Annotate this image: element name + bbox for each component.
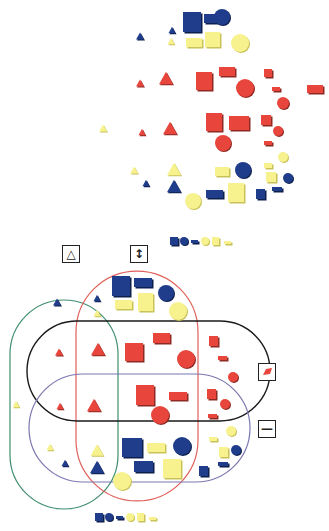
red-rect-block: [208, 414, 219, 420]
yellow-circle-block: [113, 472, 132, 491]
yellow-square-block: [266, 172, 278, 184]
yellow-rect-block: [186, 38, 204, 49]
red-triangle-block: [136, 79, 145, 87]
yellow-rect-block: [149, 517, 158, 522]
yellow-triangle-block: [91, 444, 105, 457]
red-circle-block: [273, 126, 284, 137]
blue-triangle-block: [94, 295, 102, 302]
yellow-circle-block: [226, 426, 237, 437]
yellow-circle-block: [185, 193, 202, 210]
bottom-legend: [95, 513, 158, 523]
yellow-rect-block: [209, 437, 219, 443]
top-legend: [170, 237, 233, 247]
label-thin-icon: —: [258, 420, 276, 438]
red-rect-block: [218, 356, 229, 362]
red-rect-block: [229, 116, 251, 132]
sorted-blocks-group: [13, 276, 243, 491]
yellow-rect-block: [215, 167, 231, 178]
yellow-square-block: [137, 513, 146, 523]
red-triangle-block: [91, 343, 106, 357]
red-square-block: [125, 343, 145, 363]
red-triangle-block: [87, 399, 102, 413]
red-triangle-block: [139, 129, 147, 136]
yellow-circle-block: [169, 302, 188, 321]
red-circle-block: [220, 399, 231, 410]
blue-circle-block: [283, 173, 294, 184]
venn-diagram-figure: △ ↕ —: [0, 0, 329, 531]
red-circle-block: [215, 135, 232, 152]
blue-triangle-block: [143, 180, 151, 187]
yellow-square-block: [163, 459, 183, 480]
red-triangle-block: [163, 122, 178, 136]
loop-triangle-green: [10, 300, 118, 509]
yellow-triangle-block: [13, 401, 21, 408]
blue-rect-block: [206, 190, 225, 200]
red-circle-block: [177, 350, 196, 369]
blue-circle-block: [158, 285, 175, 302]
blue-rect-block: [272, 187, 284, 193]
blue-circle-block: [173, 437, 192, 456]
triangle-icon: △: [66, 248, 75, 260]
red-square-block: [264, 69, 274, 79]
yellow-triangle-block: [130, 166, 139, 174]
yellow-square-block: [138, 293, 155, 313]
red-rect-block: [169, 392, 189, 402]
yellow-triangle-block: [47, 444, 55, 451]
red-triangle-block: [55, 348, 64, 356]
yellow-rect-block: [264, 163, 274, 170]
blue-triangle-block: [62, 460, 70, 467]
blue-triangle-block: [90, 461, 105, 475]
yellow-circle-block: [231, 34, 250, 53]
red-square-block: [207, 389, 218, 401]
diagram-canvas: [0, 0, 329, 531]
yellow-rect-block: [147, 443, 167, 454]
red-rect-block: [307, 85, 325, 95]
blue-square-block: [199, 466, 210, 478]
red-blob-icon: [261, 367, 273, 377]
yellow-circle-block: [201, 237, 210, 246]
blue-triangle-block: [169, 27, 177, 34]
blue-rect-block: [134, 461, 155, 474]
yellow-square-block: [228, 183, 246, 204]
red-rect-block: [153, 333, 172, 345]
label-large-icon: ↕: [130, 245, 148, 263]
yellow-square-block: [205, 32, 222, 49]
red-triangle-block: [159, 72, 174, 86]
blue-circle-block: [231, 445, 242, 456]
red-rect-block: [219, 67, 237, 78]
label-red-icon: [258, 363, 276, 381]
red-circle-block: [236, 79, 255, 98]
red-triangle-block: [57, 403, 65, 410]
red-square-block: [196, 72, 214, 92]
blue-circle-block: [235, 162, 252, 179]
blue-triangle-block: [167, 180, 182, 194]
red-square-block: [206, 113, 224, 133]
blue-square-block: [170, 237, 180, 247]
blue-square-block: [112, 276, 132, 298]
unsorted-blocks-group: [99, 9, 325, 210]
yellow-square-block: [219, 447, 230, 459]
blue-rect-block: [191, 240, 200, 245]
up-down-arrow-icon: ↕: [134, 248, 144, 260]
yellow-square-block: [212, 237, 221, 247]
label-triangle-icon: △: [62, 245, 80, 263]
red-square-block: [261, 115, 273, 127]
blue-rect-block: [134, 278, 154, 289]
yellow-triangle-block: [168, 38, 176, 45]
red-circle-block: [228, 372, 239, 383]
yellow-triangle-block: [167, 163, 182, 177]
yellow-circle-block: [278, 152, 289, 163]
yellow-rect-block: [224, 241, 233, 246]
yellow-circle-block: [126, 513, 135, 522]
blue-triangle-block: [136, 32, 145, 40]
blue-circle-block: [180, 237, 189, 246]
blue-square-block: [122, 438, 144, 459]
thin-dash-icon: —: [261, 423, 273, 435]
yellow-triangle-block: [99, 124, 108, 132]
yellow-rect-block: [115, 300, 134, 311]
blue-square-block: [95, 513, 105, 523]
red-circle-block: [277, 97, 290, 110]
red-rect-block: [272, 87, 282, 93]
red-square-block: [136, 385, 156, 407]
red-rect-block: [264, 141, 274, 147]
